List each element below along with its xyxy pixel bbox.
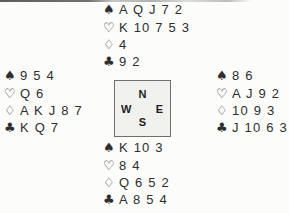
north-diamond-row: ♢ 4	[103, 36, 190, 53]
south-hand: ♠ K 10 3 ♡ 8 4 ♢ Q 6 5 2 ♣ A 8 5 4	[103, 139, 170, 209]
compass-east-label: E	[156, 103, 163, 114]
north-diamonds-cards: 4	[119, 37, 127, 52]
south-spade-row: ♠ K 10 3	[103, 139, 170, 156]
west-spades-cards: 9 5 4	[20, 68, 55, 83]
east-heart-row: ♡ A J 9 2	[216, 84, 288, 101]
compass-north-label: N	[115, 89, 170, 100]
east-hearts-cards: A J 9 2	[232, 86, 280, 101]
east-club-row: ♣ J 10 6 3	[216, 119, 288, 136]
club-icon: ♣	[216, 121, 232, 134]
club-icon: ♣	[103, 55, 119, 68]
club-icon: ♣	[103, 193, 119, 206]
north-club-row: ♣ 9 2	[103, 53, 190, 70]
heart-icon: ♡	[103, 159, 119, 172]
bridge-deal-diagram: ♠ A Q J 7 2 ♡ K 10 7 5 3 ♢ 4 ♣ 9 2 ♠ 9 5…	[0, 0, 289, 213]
spade-icon: ♠	[216, 69, 232, 82]
south-clubs-cards: A 8 5 4	[119, 192, 168, 207]
south-diamond-row: ♢ Q 6 5 2	[103, 174, 170, 191]
south-heart-row: ♡ 8 4	[103, 156, 170, 173]
south-diamonds-cards: Q 6 5 2	[119, 175, 170, 190]
south-hearts-cards: 8 4	[119, 158, 141, 173]
west-club-row: ♣ K Q 7	[4, 119, 83, 136]
north-spades-cards: A Q J 7 2	[119, 2, 183, 17]
east-spade-row: ♠ 8 6	[216, 67, 288, 84]
spade-icon: ♠	[103, 141, 119, 154]
east-spades-cards: 8 6	[232, 68, 254, 83]
south-spades-cards: K 10 3	[119, 140, 164, 155]
north-hearts-cards: K 10 7 5 3	[119, 20, 190, 35]
west-spade-row: ♠ 9 5 4	[4, 67, 83, 84]
east-hand: ♠ 8 6 ♡ A J 9 2 ♢ 10 9 3 ♣ J 10 6 3	[216, 67, 288, 137]
west-hand: ♠ 9 5 4 ♡ Q 6 ♢ A K J 8 7 ♣ K Q 7	[4, 67, 83, 137]
east-diamond-row: ♢ 10 9 3	[216, 102, 288, 119]
west-clubs-cards: K Q 7	[20, 120, 59, 135]
north-spade-row: ♠ A Q J 7 2	[103, 1, 190, 18]
east-clubs-cards: J 10 6 3	[232, 120, 288, 135]
north-clubs-cards: 9 2	[119, 54, 141, 69]
west-diamond-row: ♢ A K J 8 7	[4, 102, 83, 119]
compass-south-label: S	[115, 117, 170, 128]
east-diamonds-cards: 10 9 3	[232, 103, 275, 118]
spade-icon: ♠	[4, 69, 20, 82]
heart-icon: ♡	[216, 87, 232, 100]
west-hearts-cards: Q 6	[20, 86, 45, 101]
spade-icon: ♠	[103, 3, 119, 16]
club-icon: ♣	[4, 121, 20, 134]
west-heart-row: ♡ Q 6	[4, 84, 83, 101]
diamond-icon: ♢	[4, 104, 20, 117]
compass-box: N W E S	[114, 80, 171, 137]
heart-icon: ♡	[4, 87, 20, 100]
compass-west-label: W	[121, 103, 131, 114]
west-diamonds-cards: A K J 8 7	[20, 103, 83, 118]
north-hand: ♠ A Q J 7 2 ♡ K 10 7 5 3 ♢ 4 ♣ 9 2	[103, 1, 190, 71]
heart-icon: ♡	[103, 21, 119, 34]
diamond-icon: ♢	[103, 176, 119, 189]
north-heart-row: ♡ K 10 7 5 3	[103, 18, 190, 35]
diamond-icon: ♢	[216, 104, 232, 117]
diamond-icon: ♢	[103, 38, 119, 51]
south-club-row: ♣ A 8 5 4	[103, 191, 170, 208]
